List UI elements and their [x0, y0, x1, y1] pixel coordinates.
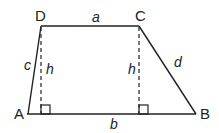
right-angle-marker-left: [41, 105, 50, 114]
side-label-c: c: [24, 57, 31, 73]
height-label-right: h: [128, 61, 136, 77]
vertex-label-d: D: [35, 7, 46, 24]
side-d-right: [139, 26, 196, 114]
right-angle-marker-right: [139, 105, 148, 114]
side-label-b: b: [110, 116, 118, 132]
trapezoid-diagram: D C A B a b c d h h: [0, 0, 219, 133]
side-label-d: d: [174, 54, 183, 70]
vertex-label-a: A: [14, 105, 24, 122]
side-label-a: a: [92, 9, 100, 25]
vertex-label-b: B: [200, 105, 210, 122]
height-label-left: h: [46, 61, 54, 77]
vertex-label-c: C: [135, 7, 146, 24]
